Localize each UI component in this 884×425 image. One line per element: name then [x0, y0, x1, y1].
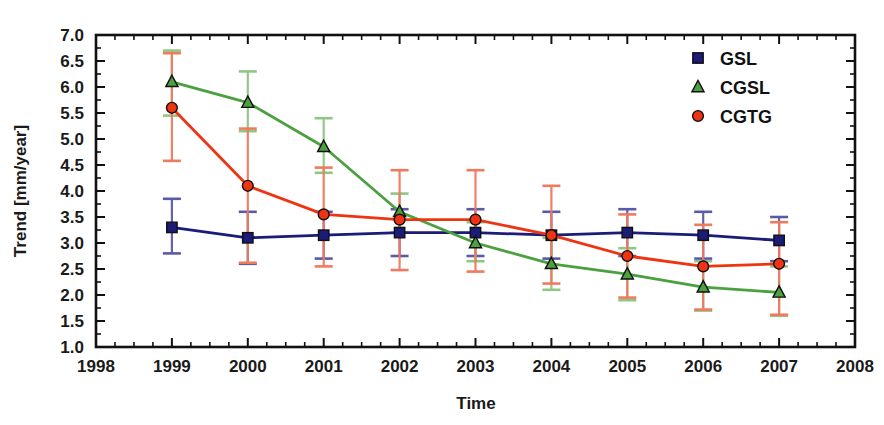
data-point-cgtg: [318, 209, 329, 220]
legend-label-cgsl: CGSL: [720, 78, 770, 98]
y-tick-label: 2.5: [60, 260, 84, 279]
data-point-cgtg: [470, 214, 481, 225]
x-axis-tick-labels: 1998199920002001200220032004200520062007…: [77, 357, 874, 376]
data-point-gsl: [319, 230, 329, 240]
x-tick-label: 2003: [457, 357, 495, 376]
y-axis-tick-labels: 1.01.52.02.53.03.54.04.55.05.56.06.57.0: [60, 26, 84, 357]
chart-figure: 1.01.52.02.53.03.54.04.55.05.56.06.57.0 …: [0, 0, 884, 425]
data-point-gsl: [698, 230, 708, 240]
legend-label-cgtg: CGTG: [720, 107, 772, 127]
y-tick-label: 1.5: [60, 312, 84, 331]
y-tick-label: 4.5: [60, 156, 84, 175]
data-point-cgtg: [622, 251, 633, 262]
y-tick-label: 5.5: [60, 104, 84, 123]
y-tick-label: 5.0: [60, 130, 84, 149]
chart-legend: GSLCGSLCGTG: [692, 49, 772, 127]
y-tick-label: 6.5: [60, 52, 84, 71]
data-point-gsl: [622, 227, 632, 237]
y-axis-title: Trend [mm/year]: [11, 125, 30, 257]
y-tick-label: 3.5: [60, 208, 84, 227]
legend-marker-cgtg: [693, 111, 704, 122]
x-tick-label: 2002: [381, 357, 419, 376]
y-tick-label: 4.0: [60, 182, 84, 201]
x-tick-label: 2000: [229, 357, 267, 376]
y-tick-label: 6.0: [60, 78, 84, 97]
trend-line-chart: 1.01.52.02.53.03.54.04.55.05.56.06.57.0 …: [0, 0, 884, 425]
x-tick-label: 2006: [684, 357, 722, 376]
data-point-gsl: [394, 227, 404, 237]
data-point-cgtg: [546, 230, 557, 241]
x-axis-title: Time: [456, 394, 495, 413]
data-point-cgtg: [242, 180, 253, 191]
data-point-cgtg: [774, 258, 785, 269]
y-tick-label: 3.0: [60, 234, 84, 253]
x-tick-label: 1999: [153, 357, 191, 376]
legend-marker-cgsl: [692, 80, 704, 91]
x-tick-label: 1998: [77, 357, 115, 376]
legend-marker-gsl: [693, 53, 703, 63]
x-tick-label: 2004: [532, 357, 570, 376]
data-point-cgtg: [698, 261, 709, 272]
data-point-gsl: [243, 233, 253, 243]
data-point-cgsl: [166, 75, 178, 86]
legend-label-gsl: GSL: [720, 49, 757, 69]
data-point-gsl: [167, 222, 177, 232]
y-tick-label: 7.0: [60, 26, 84, 45]
y-tick-label: 1.0: [60, 338, 84, 357]
data-point-cgtg: [394, 214, 405, 225]
data-point-gsl: [774, 235, 784, 245]
x-tick-label: 2008: [836, 357, 874, 376]
y-tick-label: 2.0: [60, 286, 84, 305]
x-tick-label: 2005: [608, 357, 646, 376]
x-tick-label: 2001: [305, 357, 343, 376]
x-tick-label: 2007: [760, 357, 798, 376]
data-point-cgtg: [167, 102, 178, 113]
